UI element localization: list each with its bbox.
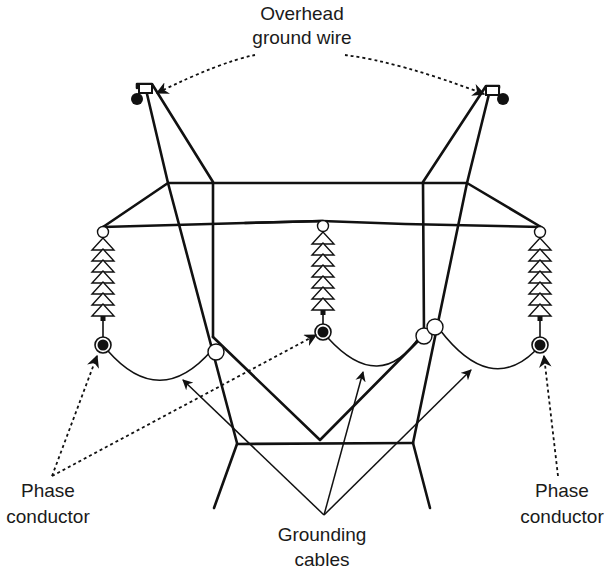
insulator-hanger-ring (98, 227, 109, 238)
insulator-clamp (321, 310, 326, 315)
insulator-hanger-ring (318, 221, 329, 232)
leader-grounding-left (183, 380, 324, 515)
grounding-clamp-right (427, 319, 443, 335)
insulator-string-center (312, 221, 334, 325)
leader-phase-right (544, 356, 558, 476)
ground-wire-right-clamp (486, 86, 499, 95)
label-phase-conductor-left-line1: Phase (21, 480, 75, 501)
grounding-cable-right (440, 330, 535, 369)
tower-v-body (213, 335, 424, 440)
ground-wire-left-clamp (139, 84, 152, 93)
grounding-cable-left (108, 350, 212, 380)
label-phase-conductor-right-line2: conductor (520, 506, 604, 527)
label-overhead-ground-wire-line2: ground wire (252, 27, 351, 48)
leader-phase-left-to-left (52, 356, 97, 476)
leader-phase-left-to-center (52, 335, 316, 476)
grounding-cable-center (328, 336, 420, 366)
insulator-clamp (101, 316, 106, 321)
label-phase-conductor-left-line2: conductor (6, 506, 90, 527)
insulator-disc (529, 304, 551, 316)
insulator-clamp (538, 316, 543, 321)
tower-foot-left (214, 444, 237, 508)
insulator-disc (312, 298, 334, 310)
tower-foot-right (413, 443, 430, 508)
phase-conductors (95, 324, 548, 353)
insulator-string-left (92, 227, 114, 338)
label-phase-conductor-right-line1: Phase (535, 480, 589, 501)
leader-ground-wire-right (345, 55, 484, 94)
insulator-strings (92, 221, 551, 338)
label-grounding-cables-line2: cables (295, 549, 350, 570)
tower-grounding-diagram: Overhead ground wire Phase conductor Pha… (0, 0, 606, 575)
overhead-ground-wire-right (486, 86, 509, 105)
leader-ground-wire-left (157, 55, 255, 93)
ground-wire-left-dot (131, 93, 143, 105)
insulator-hanger-ring (535, 227, 546, 238)
insulator-disc (92, 304, 114, 316)
grounding-clamp-left (208, 344, 224, 360)
tower-waist (237, 443, 413, 444)
label-grounding-cables-line1: Grounding (278, 524, 367, 545)
label-overhead-ground-wire-line1: Overhead (260, 3, 343, 24)
crossarm-lower-left (245, 221, 322, 223)
insulator-string-right (529, 227, 551, 338)
